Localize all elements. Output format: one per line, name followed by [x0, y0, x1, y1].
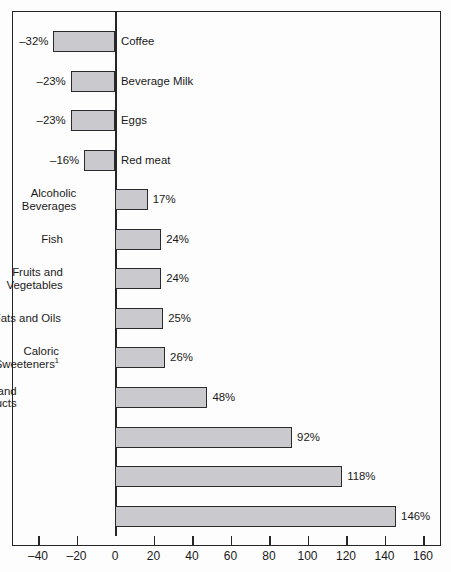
bar-row: 118%CarbonatedSoft Drinks — [0, 466, 451, 487]
bar[interactable] — [115, 347, 165, 368]
bar-value-label: 146% — [401, 506, 430, 527]
bar-value-label: 25% — [168, 308, 191, 329]
bar-row: 92%Poultry — [0, 427, 451, 448]
bar-value-label: 17% — [153, 189, 176, 210]
bar-value-label: 48% — [212, 387, 235, 408]
bar[interactable] — [115, 189, 148, 210]
bar-value-label: 24% — [166, 229, 189, 250]
x-axis-tick — [154, 536, 156, 546]
bar[interactable] — [53, 31, 115, 52]
bar[interactable] — [115, 466, 342, 487]
bar-row: 26%CaloricSweeteners1 — [0, 347, 451, 368]
bar-category-label: Beverage Milk — [121, 75, 193, 88]
bar-category-label: Eggs — [121, 114, 147, 127]
bar-category-label: Red meat — [121, 154, 170, 167]
chart-page: –32%Coffee–23%Beverage Milk–23%Eggs–16%R… — [0, 0, 451, 572]
x-axis-tick-label: 160 — [400, 549, 446, 563]
bar-row: 146%Cheese — [0, 506, 451, 527]
bar-row: –16%Red meat — [0, 150, 451, 171]
bar[interactable] — [115, 387, 207, 408]
bar[interactable] — [84, 150, 115, 171]
bar-value-label: 92% — [297, 427, 320, 448]
bar-row: 24%Fish — [0, 229, 451, 250]
bar-row: –23%Beverage Milk — [0, 71, 451, 92]
bar-value-label: 118% — [347, 466, 375, 487]
bar-category-label: CaloricSweeteners1 — [0, 345, 59, 370]
bar-row: –32%Coffee — [0, 31, 451, 52]
bar[interactable] — [71, 71, 115, 92]
footnote-marker: 1 — [55, 356, 59, 365]
bar-row: 24%Fruits andVegetables — [0, 268, 451, 289]
bar-value-label: –32% — [19, 31, 48, 52]
x-axis-tick — [231, 536, 233, 546]
bar-category-label: Fruits andVegetables — [6, 266, 62, 291]
bar-row: 25%Fats and Oils — [0, 308, 451, 329]
bar-category-label: Fish — [41, 233, 63, 246]
bar[interactable] — [115, 268, 161, 289]
x-axis-tick — [385, 536, 387, 546]
bar[interactable] — [115, 308, 163, 329]
x-axis-tick — [346, 536, 348, 546]
bar-row: –23%Eggs — [0, 110, 451, 131]
bar-category-label: Fats and Oils — [0, 312, 61, 325]
x-axis-tick — [423, 536, 425, 546]
bar[interactable] — [115, 427, 292, 448]
x-axis-tick — [77, 536, 79, 546]
x-axis-tick — [38, 536, 40, 546]
bar-row: 48%Flour andCereal Products — [0, 387, 451, 408]
x-axis-tick — [269, 536, 271, 546]
bar[interactable] — [71, 110, 115, 131]
bar[interactable] — [115, 506, 396, 527]
bars-layer: –32%Coffee–23%Beverage Milk–23%Eggs–16%R… — [0, 0, 451, 572]
bar-value-label: 24% — [166, 268, 189, 289]
bar[interactable] — [115, 229, 161, 250]
bar-row: 17%AlcoholicBeverages — [0, 189, 451, 210]
bar-category-label: AlcoholicBeverages — [22, 187, 76, 212]
bar-value-label: –23% — [37, 71, 66, 92]
bar-value-label: 26% — [170, 347, 193, 368]
x-axis-tick — [192, 536, 194, 546]
bar-value-label: –23% — [37, 110, 66, 131]
bar-value-label: –16% — [50, 150, 79, 171]
bar-category-label: Flour andCereal Products — [0, 385, 17, 410]
bar-category-label: Coffee — [121, 35, 154, 48]
x-axis-tick — [308, 536, 310, 546]
